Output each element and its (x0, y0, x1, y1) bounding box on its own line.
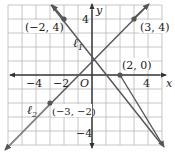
x-axis-label: x (166, 77, 173, 90)
tick-x-neg4: −4 (26, 77, 42, 90)
label-point-neg2-4: (−2, 4) (25, 21, 64, 34)
label-point-neg3-neg2: (−3, −2) (52, 106, 96, 117)
tick-y-4: 4 (82, 13, 89, 26)
origin-label: O (80, 77, 89, 90)
label-l2: ℓ2 (27, 103, 37, 119)
point-neg3-neg2 (47, 100, 52, 105)
point-2-0 (117, 72, 122, 77)
y-axis-label: y (95, 4, 103, 17)
tick-x-4: 4 (143, 77, 150, 90)
coordinate-plane: (−2, 4) (3, 4) (2, 0) (−3, −2) ℓ1 ℓ2 −4 … (0, 0, 175, 153)
point-3-4 (131, 16, 136, 21)
label-point-2-0: (2, 0) (122, 59, 152, 72)
tick-y-neg4: −4 (76, 127, 92, 140)
tick-x-neg2: −2 (53, 77, 69, 90)
label-point-3-4: (3, 4) (140, 21, 170, 34)
